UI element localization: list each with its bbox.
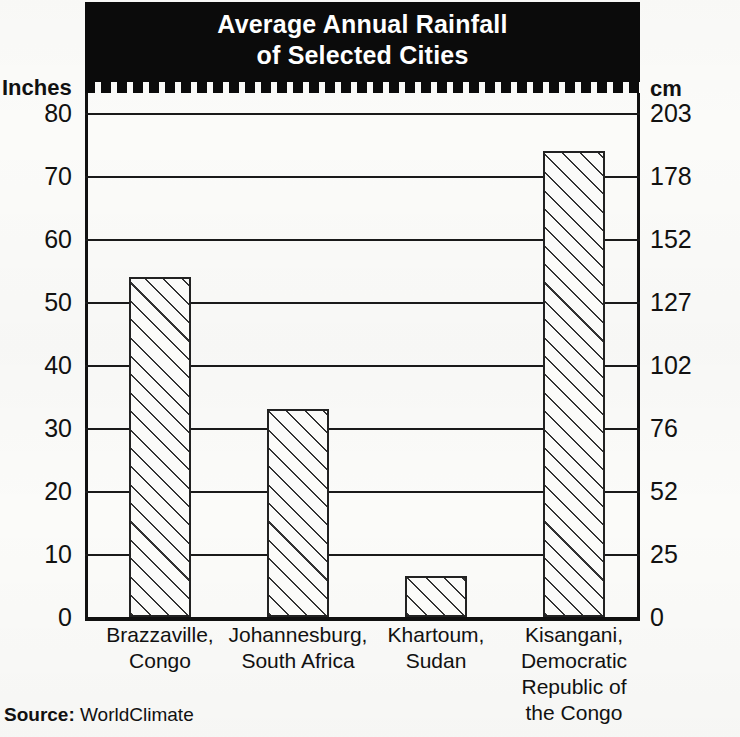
y-axis-right-ticks: 203 178 152 127 102 76 52 25 0 xyxy=(650,113,738,617)
y-tick-right-178: 178 xyxy=(650,164,692,189)
chart-title-line-2: of Selected Cities xyxy=(85,40,640,71)
x-label-johannesburg-line-2: South Africa xyxy=(218,648,378,674)
bar-kisangani[interactable] xyxy=(543,151,605,617)
bar-brazzaville[interactable] xyxy=(129,277,191,617)
y-tick-left-30: 30 xyxy=(0,416,72,441)
y-tick-left-80: 80 xyxy=(0,101,72,126)
y-tick-right-25: 25 xyxy=(650,542,678,567)
x-label-johannesburg-line-1: Johannesburg, xyxy=(218,622,378,648)
y-tick-right-76: 76 xyxy=(650,416,678,441)
bar-johannesburg[interactable] xyxy=(267,409,329,617)
y-tick-left-70: 70 xyxy=(0,164,72,189)
y-tick-left-60: 60 xyxy=(0,227,72,252)
x-label-kisangani-line-1: Kisangani, xyxy=(494,622,654,648)
y-axis-left-line xyxy=(85,93,88,617)
y-tick-left-10: 10 xyxy=(0,542,72,567)
y-tick-left-50: 50 xyxy=(0,290,72,315)
chart-title-line-1: Average Annual Rainfall xyxy=(85,9,640,40)
x-label-khartoum: Khartoum, Sudan xyxy=(356,622,516,674)
x-label-brazzaville-line-1: Brazzaville, xyxy=(80,622,240,648)
y-tick-right-127: 127 xyxy=(650,290,692,315)
y-tick-left-20: 20 xyxy=(0,479,72,504)
source-note: Source: WorldClimate xyxy=(4,704,194,726)
x-label-kisangani-line-4: the Congo xyxy=(494,700,654,726)
y-tick-right-102: 102 xyxy=(650,353,692,378)
y-tick-left-40: 40 xyxy=(0,353,72,378)
banner-tooth-border xyxy=(85,82,640,93)
y-axis-unit-inches: Inches xyxy=(2,75,72,101)
bar-khartoum[interactable] xyxy=(405,576,467,617)
x-label-kisangani-line-2: Democratic xyxy=(494,648,654,674)
plot-area xyxy=(85,113,640,617)
rainfall-chart-page: Average Annual Rainfall of Selected Citi… xyxy=(0,0,740,737)
x-label-kisangani-line-3: Republic of xyxy=(494,674,654,700)
x-axis-line xyxy=(85,617,640,621)
source-value: WorldClimate xyxy=(80,704,194,725)
x-label-khartoum-line-1: Khartoum, xyxy=(356,622,516,648)
y-tick-right-203: 203 xyxy=(650,101,692,126)
source-label: Source: xyxy=(4,704,75,725)
y-axis-right-line xyxy=(637,93,640,617)
x-label-kisangani: Kisangani, Democratic Republic of the Co… xyxy=(494,622,654,726)
x-label-khartoum-line-2: Sudan xyxy=(356,648,516,674)
y-tick-right-52: 52 xyxy=(650,479,678,504)
chart-title-banner: Average Annual Rainfall of Selected Citi… xyxy=(85,2,640,82)
y-tick-left-0: 0 xyxy=(0,605,72,630)
y-axis-left-ticks: 80 70 60 50 40 30 20 10 0 xyxy=(0,113,72,617)
y-tick-right-152: 152 xyxy=(650,227,692,252)
x-label-johannesburg: Johannesburg, South Africa xyxy=(218,622,378,674)
x-label-brazzaville-line-2: Congo xyxy=(80,648,240,674)
x-label-brazzaville: Brazzaville, Congo xyxy=(80,622,240,674)
gridline-80 xyxy=(85,113,640,115)
